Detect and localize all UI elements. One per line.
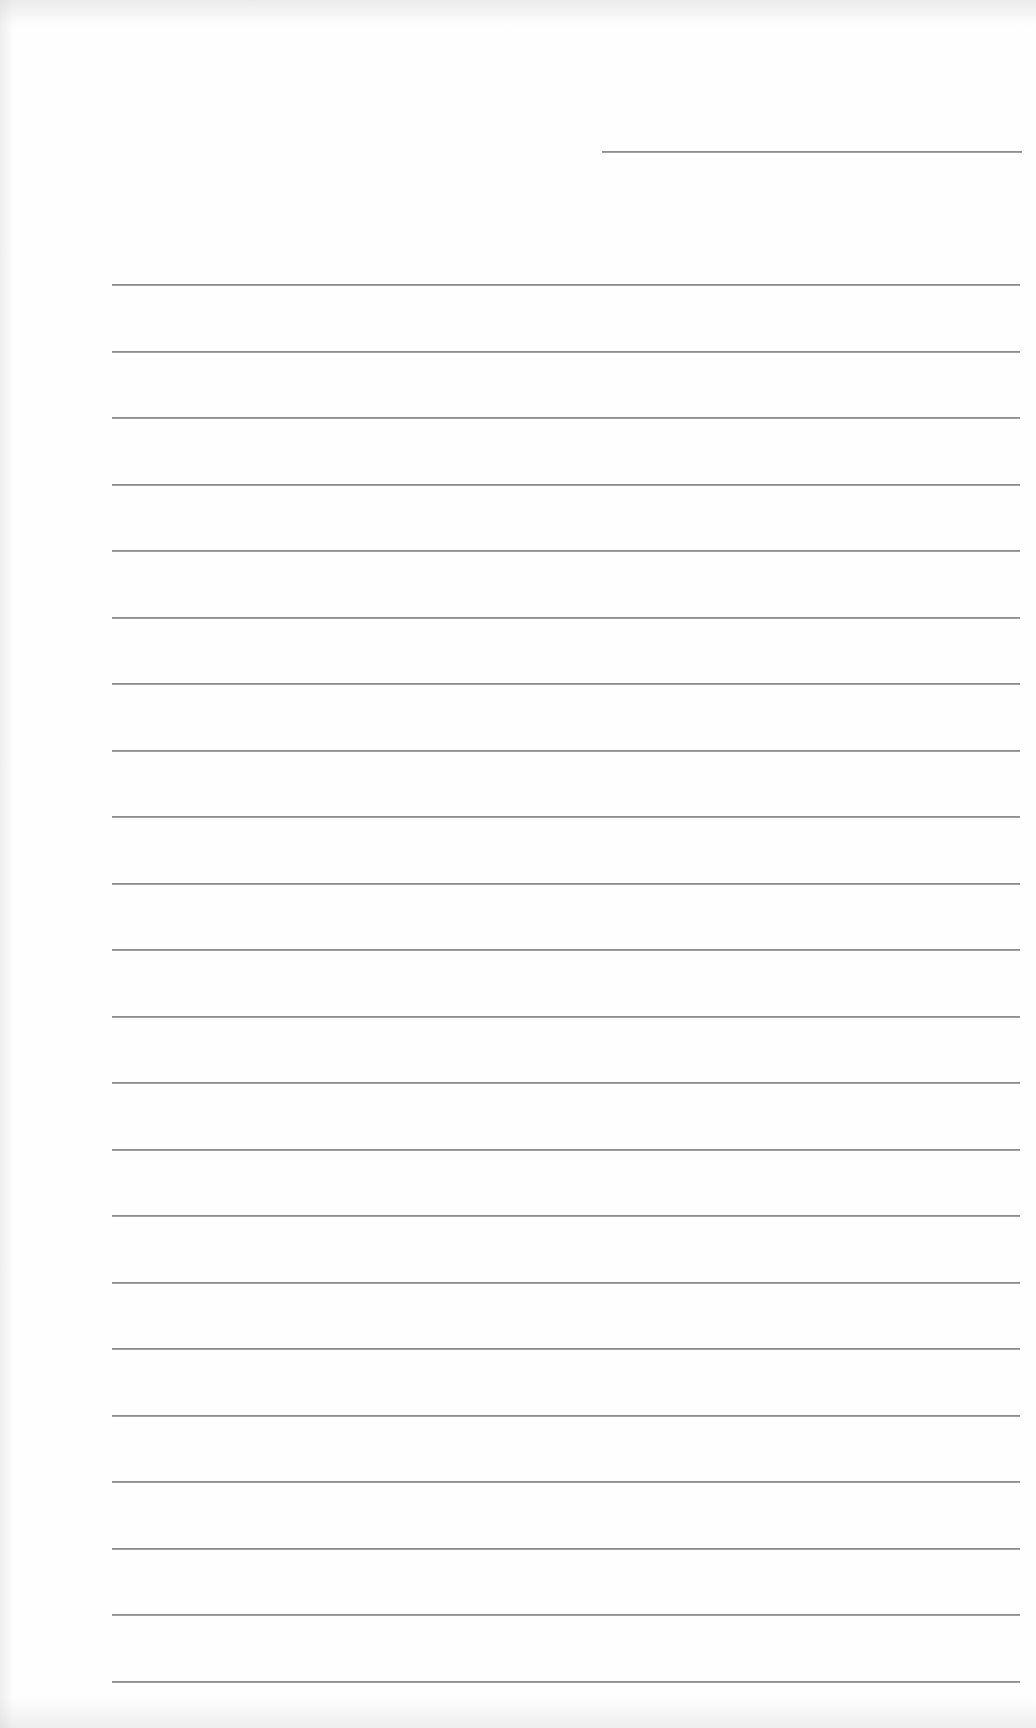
ruled-line <box>112 683 1020 685</box>
ruled-line <box>112 284 1020 286</box>
ruled-line <box>112 949 1020 951</box>
ruled-line <box>112 1149 1020 1151</box>
scan-edge-left <box>0 0 14 1728</box>
ruled-line <box>112 484 1020 486</box>
ruled-line <box>112 1016 1020 1018</box>
ruled-line <box>112 1681 1020 1683</box>
ruled-line <box>112 1348 1020 1350</box>
ruled-line <box>112 351 1020 353</box>
ruled-line <box>112 750 1020 752</box>
ruled-line <box>112 1614 1020 1616</box>
ruled-line <box>112 1481 1020 1483</box>
ruled-line <box>112 1415 1020 1417</box>
ruled-line <box>112 550 1020 552</box>
scan-edge-bottom <box>0 1698 1036 1728</box>
ruled-line <box>112 417 1020 419</box>
scan-edge-top <box>0 0 1036 26</box>
header-rule <box>602 151 1022 153</box>
ruled-line <box>112 1082 1020 1084</box>
ruled-line <box>112 1215 1020 1217</box>
ruled-line <box>112 617 1020 619</box>
ruled-line <box>112 1548 1020 1550</box>
ruled-line <box>112 1282 1020 1284</box>
lined-paper-page <box>0 0 1036 1728</box>
ruled-line <box>112 883 1020 885</box>
ruled-line <box>112 816 1020 818</box>
